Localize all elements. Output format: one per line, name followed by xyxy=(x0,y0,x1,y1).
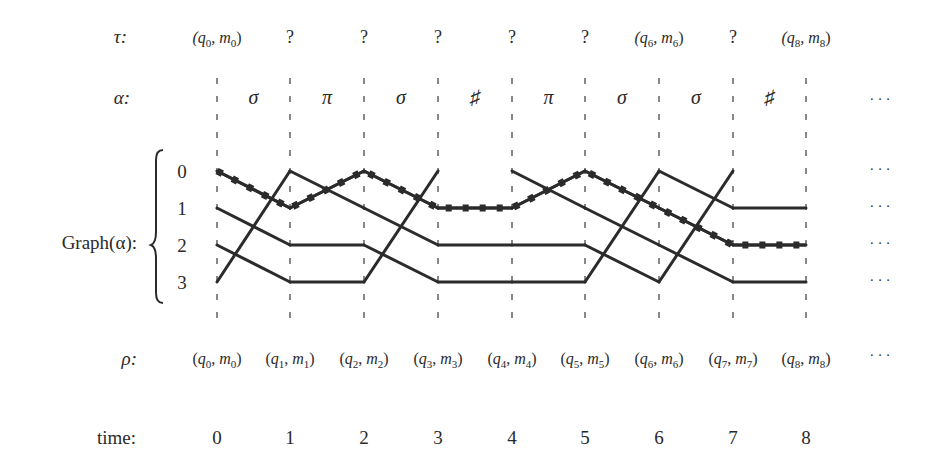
graph-row-number-3: 3 xyxy=(177,272,187,293)
time-tick-3: 3 xyxy=(433,427,443,448)
graph-row-numbers: 0123 xyxy=(177,161,187,293)
rho-entry-8: (q8, m8) xyxy=(781,350,830,370)
tau-entry-1: ? xyxy=(286,27,294,47)
time-row: 012345678 xyxy=(212,427,811,448)
rho-entry-2: (q2, m2) xyxy=(339,350,388,370)
alpha-row-label: α: xyxy=(114,87,130,108)
rho-entry-1: (q1, m1) xyxy=(265,350,314,370)
tau-entry-3: ? xyxy=(434,27,442,47)
time-tick-7: 7 xyxy=(728,427,738,448)
alpha-letter-7: ♯ xyxy=(764,86,776,108)
graph-edge xyxy=(217,171,290,282)
rho-entry-0: (q0, m0) xyxy=(192,350,241,370)
rho-entry-4: (q4, m4) xyxy=(487,350,536,370)
alpha-letter-3: ♯ xyxy=(469,86,481,108)
highlighted-run xyxy=(217,171,806,245)
alpha-ellipsis: · · · xyxy=(870,92,891,107)
tau-entry-0: (q0, m0) xyxy=(192,29,241,49)
rho-entry-6: (q6, m6) xyxy=(634,350,683,370)
graph-brace xyxy=(151,150,163,303)
tau-entry-5: ? xyxy=(581,27,589,47)
alpha-row: σπσ♯πσσ♯· · · xyxy=(249,86,891,108)
graph-row-label: Graph(α): xyxy=(62,232,137,254)
rho-entry-5: (q5, m5) xyxy=(560,350,609,370)
rho-entry-7: (q7, m7) xyxy=(708,350,757,370)
tau-entry-8: (q8, m8) xyxy=(781,29,830,49)
rho-entry-3: (q3, m3) xyxy=(413,350,462,370)
graph-ellipsis: · · ·· · ·· · ·· · · xyxy=(870,162,891,288)
rho-row-label: ρ: xyxy=(121,348,137,369)
tau-entry-6: (q6, m6) xyxy=(634,29,683,49)
automaton-run-diagram: τ: α: Graph(α): ρ: time: (q0, m0)?????(q… xyxy=(0,0,929,473)
time-tick-0: 0 xyxy=(212,427,222,448)
tau-entry-4: ? xyxy=(508,27,516,47)
alpha-letter-2: σ xyxy=(396,86,407,108)
time-tick-2: 2 xyxy=(359,427,369,448)
alpha-letter-0: σ xyxy=(249,86,260,108)
graph-row-number-0: 0 xyxy=(177,161,187,182)
graph-row-ellipsis-3: · · · xyxy=(870,273,891,288)
graph-row-number-1: 1 xyxy=(177,198,187,219)
alpha-letter-4: π xyxy=(543,86,554,108)
rho-row: (q0, m0)(q1, m1)(q2, m2)(q3, m3)(q4, m4)… xyxy=(192,348,890,370)
tau-entry-2: ? xyxy=(360,27,368,47)
tau-row-label: τ: xyxy=(114,26,127,47)
tau-entry-7: ? xyxy=(729,27,737,47)
alpha-letter-1: π xyxy=(322,86,333,108)
graph-row-ellipsis-1: · · · xyxy=(870,199,891,214)
time-tick-5: 5 xyxy=(580,427,590,448)
alpha-letter-6: σ xyxy=(691,86,702,108)
time-tick-1: 1 xyxy=(285,427,295,448)
time-row-label: time: xyxy=(97,427,136,448)
graph-row-ellipsis-2: · · · xyxy=(870,236,891,251)
tau-row: (q0, m0)?????(q6, m6)?(q8, m8) xyxy=(192,27,830,49)
time-tick-8: 8 xyxy=(801,427,811,448)
time-tick-6: 6 xyxy=(654,427,664,448)
graph-row-ellipsis-0: · · · xyxy=(870,162,891,177)
alpha-letter-5: σ xyxy=(617,86,628,108)
graph-row-number-2: 2 xyxy=(177,235,187,256)
time-tick-4: 4 xyxy=(507,427,517,448)
rho-ellipsis: · · · xyxy=(870,348,891,363)
